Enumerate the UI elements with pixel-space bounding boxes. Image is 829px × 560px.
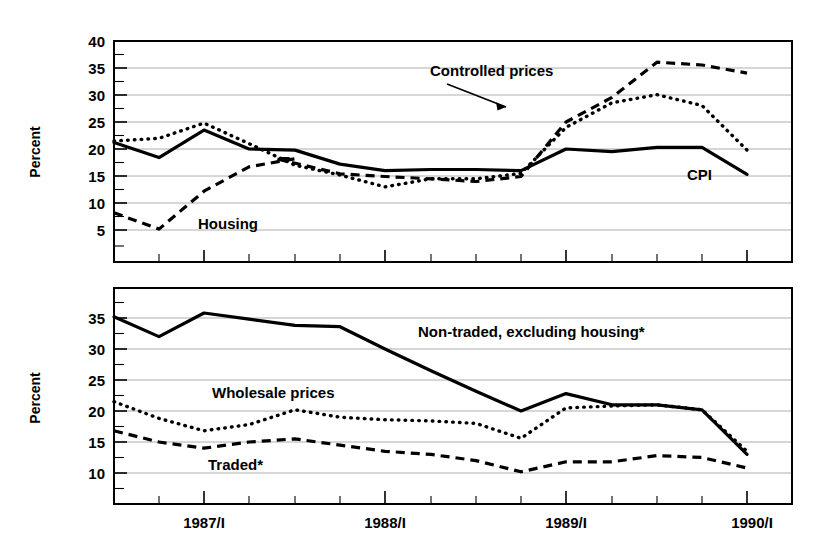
top-ytick-15: 15 bbox=[88, 168, 105, 185]
xtick-1989: 1989/I bbox=[545, 514, 587, 531]
bottom-ytick-15: 15 bbox=[88, 434, 105, 451]
top-panel-x-ticks bbox=[159, 250, 747, 262]
series-controlled-prices-line bbox=[114, 95, 747, 187]
bottom-ytick-35: 35 bbox=[88, 310, 105, 327]
bottom-ytick-20: 20 bbox=[88, 403, 105, 420]
two-panel-line-chart: 40 35 30 25 20 15 10 5 Percent bbox=[0, 0, 829, 560]
xtick-1988: 1988/I bbox=[364, 514, 406, 531]
top-panel: 40 35 30 25 20 15 10 5 Percent bbox=[27, 33, 792, 262]
bottom-panel-y-axis-title: Percent bbox=[27, 372, 43, 424]
label-housing: Housing bbox=[198, 215, 258, 232]
xtick-1990: 1990/I bbox=[731, 514, 773, 531]
top-ytick-20: 20 bbox=[88, 141, 105, 158]
top-panel-y-axis-title: Percent bbox=[27, 126, 43, 178]
bottom-panel-y-ticks bbox=[114, 303, 127, 489]
top-ytick-25: 25 bbox=[88, 114, 105, 131]
label-non-traded-excluding-housing: Non-traded, excluding housing* bbox=[418, 323, 645, 340]
label-cpi: CPI bbox=[687, 166, 712, 183]
series-cpi-line bbox=[114, 130, 747, 174]
top-ytick-35: 35 bbox=[88, 60, 105, 77]
bottom-ytick-10: 10 bbox=[88, 465, 105, 482]
label-wholesale-prices: Wholesale prices bbox=[212, 384, 335, 401]
bottom-ytick-25: 25 bbox=[88, 372, 105, 389]
top-ytick-5: 5 bbox=[97, 222, 105, 239]
figure-container: 40 35 30 25 20 15 10 5 Percent bbox=[0, 0, 829, 560]
series-housing-line bbox=[114, 62, 747, 229]
bottom-ytick-30: 30 bbox=[88, 341, 105, 358]
top-ytick-40: 40 bbox=[88, 33, 105, 50]
series-wholesale-prices-line bbox=[114, 402, 747, 452]
label-controlled-prices: Controlled prices bbox=[430, 62, 553, 79]
controlled-prices-arrow-icon bbox=[447, 84, 506, 111]
top-ytick-30: 30 bbox=[88, 87, 105, 104]
bottom-panel: 35 30 25 20 15 10 Percent bbox=[27, 288, 792, 504]
xtick-1987: 1987/I bbox=[183, 514, 225, 531]
top-ytick-10: 10 bbox=[88, 195, 105, 212]
label-traded: Traded* bbox=[208, 456, 263, 473]
bottom-panel-x-ticks bbox=[159, 491, 747, 504]
x-axis-tick-labels: 1987/I 1988/I 1989/I 1990/I bbox=[183, 514, 773, 531]
